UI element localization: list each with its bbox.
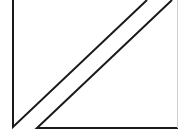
right-triangle [37,0,178,128]
diagram-canvas [0,0,178,136]
left-triangle [13,0,147,127]
